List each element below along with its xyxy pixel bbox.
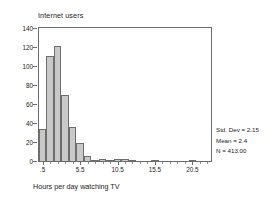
y-axis-tick-mark <box>33 47 37 48</box>
x-axis-minor-tick <box>58 162 59 164</box>
histogram-bar <box>151 160 158 161</box>
stat-n: N = 413.00 <box>216 146 269 157</box>
histogram-bar <box>39 129 46 161</box>
x-axis-title: Hours per day watching TV <box>33 182 120 191</box>
histogram-bar <box>76 143 83 161</box>
y-axis-tick-mark <box>33 142 37 143</box>
histogram-bar <box>121 159 128 161</box>
x-axis-minor-tick <box>170 162 171 164</box>
histogram-bar <box>84 156 91 161</box>
x-axis-minor-tick <box>95 162 96 164</box>
x-axis-tick-mark <box>192 162 193 165</box>
y-axis-tick-label: 120 <box>22 44 33 51</box>
x-axis-tick-mark <box>80 162 81 165</box>
x-axis-tick-label: .5 <box>40 166 45 173</box>
stat-mean: Mean = 2.4 <box>216 136 269 147</box>
y-axis-tick-mark <box>33 85 37 86</box>
histogram-bar <box>54 46 61 161</box>
x-axis-tick-label: 5.5 <box>76 166 85 173</box>
x-axis-minor-tick <box>125 162 126 164</box>
histogram-chart: Internet users Frequency 020406080100120… <box>0 0 269 203</box>
x-axis-minor-tick <box>132 162 133 164</box>
histogram-bar <box>114 159 121 161</box>
y-axis-tick-label: 100 <box>22 63 33 70</box>
histogram-bar <box>129 160 136 161</box>
x-axis-minor-tick <box>65 162 66 164</box>
stat-std-dev: Std. Dev = 2.15 <box>216 125 269 136</box>
x-axis-minor-tick <box>88 162 89 164</box>
x-axis-minor-tick <box>147 162 148 164</box>
y-axis-tick-mark <box>33 66 37 67</box>
x-axis-minor-tick <box>177 162 178 164</box>
plot-area <box>39 28 211 161</box>
histogram-bar <box>189 160 196 161</box>
x-axis-minor-tick <box>200 162 201 164</box>
y-axis-tick-mark <box>33 123 37 124</box>
chart-title: Internet users <box>38 11 83 20</box>
y-axis-tick-label: 40 <box>26 120 33 127</box>
y-axis-tick-label: 20 <box>26 139 33 146</box>
y-axis-tick-mark <box>33 28 37 29</box>
y-axis-tick-label: 60 <box>26 101 33 108</box>
x-axis-tick-label: 20.5 <box>186 166 198 173</box>
histogram-bar <box>46 56 53 161</box>
histogram-bar <box>106 160 113 161</box>
x-axis: .55.510.515.520.5 <box>38 162 213 178</box>
x-axis-minor-tick <box>103 162 104 164</box>
x-axis-minor-tick <box>110 162 111 164</box>
y-axis: 020406080100120140 <box>0 27 38 163</box>
x-axis-minor-tick <box>140 162 141 164</box>
histogram-bar <box>91 160 98 161</box>
x-axis-tick-label: 15.5 <box>149 166 161 173</box>
x-axis-minor-tick <box>207 162 208 164</box>
x-axis-minor-tick <box>73 162 74 164</box>
x-axis-tick-mark <box>155 162 156 165</box>
y-axis-tick-label: 80 <box>26 82 33 89</box>
y-axis-tick-label: 140 <box>22 25 33 32</box>
y-axis-tick-mark <box>33 104 37 105</box>
statistics-box: Std. Dev = 2.15 Mean = 2.4 N = 413.00 <box>216 125 269 157</box>
histogram-bar <box>69 127 76 161</box>
x-axis-tick-mark <box>43 162 44 165</box>
x-axis-tick-mark <box>118 162 119 165</box>
x-axis-minor-tick <box>162 162 163 164</box>
x-axis-minor-tick <box>50 162 51 164</box>
histogram-bar <box>99 159 106 161</box>
histogram-bar <box>61 95 68 161</box>
y-axis-tick-mark <box>33 161 37 162</box>
x-axis-tick-label: 10.5 <box>111 166 123 173</box>
x-axis-minor-tick <box>185 162 186 164</box>
plot-frame <box>38 27 212 162</box>
